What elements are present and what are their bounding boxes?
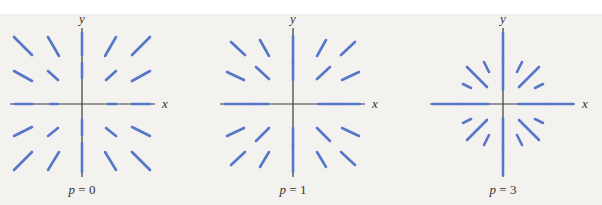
vector-arrow (519, 67, 539, 87)
vector-arrow (535, 119, 543, 123)
vector-arrow (317, 152, 326, 167)
vector-arrow (342, 72, 359, 80)
vector-arrow (231, 152, 245, 165)
vector-arrow (256, 67, 269, 79)
vector-arrow (48, 71, 58, 80)
vector-field-figure: x y p = 0 x y p = 1 x y p = 3 (0, 0, 602, 205)
vector-arrow (463, 119, 471, 123)
vector-arrow (132, 152, 150, 170)
vector-arrow (463, 84, 471, 88)
y-axis-label: y (77, 11, 85, 26)
vector-arrow (517, 135, 522, 145)
vector-arrow (106, 71, 116, 80)
vector-arrow (106, 128, 116, 136)
vector-arrow (231, 42, 245, 55)
vector-arrow (484, 62, 489, 72)
vector-arrow (48, 128, 58, 136)
vector-arrow (317, 128, 330, 141)
vector-arrow (467, 67, 487, 87)
vector-arrow (227, 128, 244, 136)
panel-p0: x y p = 0 (10, 11, 168, 197)
vector-arrow (14, 152, 32, 170)
y-axis-label: y (288, 11, 296, 26)
panel-label: p = 1 (279, 182, 307, 197)
vector-arrow (341, 152, 355, 165)
vector-arrow (256, 128, 269, 141)
vector-arrow (48, 152, 59, 170)
vector-arrow (317, 40, 326, 56)
vector-arrow (14, 71, 32, 81)
panel-p3: x y p = 3 (430, 11, 588, 197)
vector-arrow (132, 127, 150, 136)
x-axis-label: x (371, 96, 378, 111)
vector-arrow (317, 67, 330, 79)
vector-arrow (14, 127, 32, 136)
vector-arrow (519, 120, 539, 140)
panel-label: p = 0 (68, 182, 96, 197)
vector-arrow (260, 152, 269, 167)
y-axis-label: y (498, 11, 506, 26)
vector-arrow (467, 120, 487, 140)
vector-arrow (132, 71, 150, 81)
x-axis-label: x (161, 96, 168, 111)
vector-arrow (227, 72, 244, 80)
vector-arrow (341, 42, 355, 55)
vector-arrow (14, 37, 32, 55)
vector-arrow (132, 37, 150, 55)
vector-arrow (484, 135, 489, 145)
vector-arrow (105, 37, 116, 56)
vector-arrow (535, 84, 543, 88)
vector-arrow (517, 62, 522, 72)
panel-label: p = 3 (489, 182, 517, 197)
vector-arrow (48, 37, 59, 56)
vector-arrow (260, 40, 269, 56)
x-axis-label: x (581, 96, 588, 111)
vector-arrow (105, 152, 116, 170)
vector-arrow (342, 128, 359, 136)
panel-p1: x y p = 1 (220, 11, 378, 197)
